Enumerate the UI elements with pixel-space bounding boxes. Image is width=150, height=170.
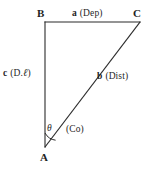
navigation-triangle-figure: B C A a(Dep) c(D.ℓ) b(Dist) θ (Co) xyxy=(0,0,150,170)
side-a-annotation: (Dep) xyxy=(80,8,103,18)
side-a-symbol: a xyxy=(72,8,77,18)
side-c-annotation-suffix: ) xyxy=(28,68,31,78)
vertex-label-a: A xyxy=(40,152,48,163)
triangle-graphic xyxy=(0,0,150,170)
angle-annotation-co: (Co) xyxy=(66,125,84,135)
side-b-symbol: b xyxy=(97,71,102,81)
angle-symbol-theta: θ xyxy=(47,124,52,134)
side-label-b-dist: b(Dist) xyxy=(97,72,128,82)
side-label-a-dep: a(Dep) xyxy=(72,9,103,19)
side-label-c-dlat: c(D.ℓ) xyxy=(3,68,31,79)
side-b-annotation: (Dist) xyxy=(105,71,128,81)
triangle-side-b-line xyxy=(45,22,140,147)
side-c-annotation-prefix: (D. xyxy=(10,68,23,78)
side-c-symbol: c xyxy=(3,68,7,78)
vertex-label-b: B xyxy=(37,8,44,19)
vertex-label-c: C xyxy=(133,8,141,19)
